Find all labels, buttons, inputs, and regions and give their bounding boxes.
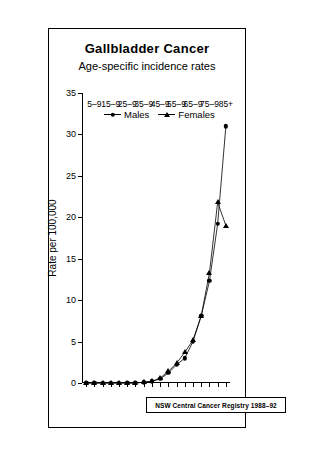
data-point-females: [132, 380, 138, 385]
data-point-females: [190, 337, 196, 342]
x-tick: [193, 383, 194, 387]
chart-subtitle: Age-specific incidence rates: [49, 60, 245, 72]
chart-figure: Gallbladder Cancer Age-specific incidenc…: [48, 28, 246, 428]
x-tick: [201, 383, 202, 387]
y-tick-label: 30: [66, 129, 76, 139]
x-tick: [160, 383, 161, 387]
source-text: NSW Central Cancer Registry 1988–92: [155, 402, 277, 409]
data-point-females: [157, 375, 163, 380]
x-tick: [168, 383, 169, 387]
series-line-females: [86, 202, 226, 383]
data-point-females: [223, 223, 229, 228]
data-point-females: [116, 380, 122, 385]
x-tick: [152, 383, 153, 387]
data-point-females: [108, 380, 114, 385]
series-line-males: [86, 126, 226, 383]
y-tick-label: 15: [66, 254, 76, 264]
y-tick-label: 25: [66, 171, 76, 181]
data-point-females: [83, 380, 89, 385]
data-point-females: [182, 349, 188, 354]
y-tick-label: 35: [66, 88, 76, 98]
data-point-females: [165, 368, 171, 373]
y-tick-label: 20: [66, 212, 76, 222]
x-tick-label: 75–9: [200, 99, 219, 109]
x-tick: [177, 383, 178, 387]
x-tick: [185, 383, 186, 387]
y-tick-label: 0: [71, 378, 76, 388]
x-tick: [226, 383, 227, 387]
x-tick: [209, 383, 210, 387]
chart-title: Gallbladder Cancer: [49, 41, 245, 56]
x-tick-label: 85+: [219, 99, 233, 109]
y-tick: [78, 383, 82, 384]
x-tick: [218, 383, 219, 387]
y-axis-label: Rate per 100,000: [47, 199, 58, 276]
series-lines: [82, 93, 230, 383]
data-point-females: [100, 380, 106, 385]
data-point-females: [198, 313, 204, 318]
data-point-females: [206, 270, 212, 275]
data-point-females: [91, 380, 97, 385]
data-point-females: [215, 199, 221, 204]
data-point-females: [124, 380, 130, 385]
data-point-females: [149, 378, 155, 383]
y-tick-label: 10: [66, 295, 76, 305]
x-tick-label: 5–9: [87, 99, 101, 109]
data-point-females: [141, 379, 147, 384]
plot-area: Rate per 100,000 05101520253035 Males Fe…: [82, 93, 230, 383]
y-tick-label: 5: [71, 337, 76, 347]
data-point-females: [174, 360, 180, 365]
source-box: NSW Central Cancer Registry 1988–92: [146, 397, 286, 413]
